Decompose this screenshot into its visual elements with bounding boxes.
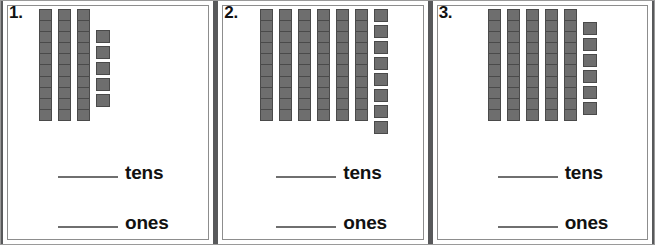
ones-answer-row-1[interactable]: ones: [58, 213, 169, 232]
ones-cube: [96, 62, 110, 75]
problem-number-2: 2.: [224, 4, 238, 21]
tens-rod: [279, 9, 292, 120]
tens-rod: [336, 9, 349, 120]
problem-panels: 1. tens ones 2. tens ones: [1, 1, 654, 244]
rod-unit: [39, 109, 52, 121]
ones-label-1: ones: [125, 213, 169, 232]
tens-rod: [298, 9, 311, 120]
rod-unit: [317, 109, 330, 121]
tens-answer-row-1[interactable]: tens: [58, 163, 163, 182]
base-ten-blocks-2: [260, 9, 388, 137]
ones-cube: [374, 25, 388, 38]
ones-answer-row-2[interactable]: ones: [276, 213, 387, 232]
tens-label-3: tens: [565, 163, 603, 182]
rod-unit: [77, 109, 90, 121]
rod-unit: [336, 109, 349, 121]
rod-unit: [526, 109, 539, 121]
ones-cube: [374, 105, 388, 118]
ones-label-2: ones: [343, 213, 387, 232]
problem-panel-3: 3. tens ones: [430, 1, 654, 244]
tens-blank-input-1[interactable]: [58, 176, 118, 178]
tens-rod: [355, 9, 368, 120]
tens-rod: [39, 9, 52, 120]
ones-label-3: ones: [565, 213, 609, 232]
tens-rod: [77, 9, 90, 120]
ones-cube: [583, 70, 597, 83]
ones-cube: [374, 9, 388, 22]
worksheet-page: 1. tens ones 2. tens ones: [0, 0, 655, 245]
tens-blank-input-3[interactable]: [498, 176, 558, 178]
ones-cube: [96, 30, 110, 43]
rod-unit: [58, 109, 71, 121]
problem-number-3: 3.: [439, 4, 453, 21]
problem-number-1: 1.: [9, 4, 23, 21]
ones-cube: [583, 54, 597, 67]
ones-blank-input-3[interactable]: [498, 226, 558, 228]
rod-unit: [564, 109, 577, 121]
problem-panel-2: 2. tens ones: [215, 1, 430, 244]
tens-rod: [488, 9, 501, 120]
tens-rod: [58, 9, 71, 120]
tens-answer-row-3[interactable]: tens: [498, 163, 603, 182]
tens-label-2: tens: [343, 163, 381, 182]
ones-cube: [96, 78, 110, 91]
ones-cube: [583, 86, 597, 99]
rod-unit: [260, 109, 273, 121]
rod-unit: [298, 109, 311, 121]
rod-unit: [545, 109, 558, 121]
ones-cube-column: [96, 30, 110, 110]
ones-cube: [374, 41, 388, 54]
ones-cube: [374, 121, 388, 134]
tens-blank-input-2[interactable]: [276, 176, 336, 178]
tens-answer-row-2[interactable]: tens: [276, 163, 381, 182]
tens-rod: [564, 9, 577, 120]
ones-cube-column: [374, 9, 388, 137]
tens-rod: [526, 9, 539, 120]
base-ten-blocks-1: [39, 9, 110, 137]
ones-cube: [583, 38, 597, 51]
ones-cube-column: [583, 22, 597, 118]
rod-unit: [355, 109, 368, 121]
ones-blank-input-1[interactable]: [58, 226, 118, 228]
ones-cube: [374, 57, 388, 70]
ones-cube: [374, 73, 388, 86]
tens-rod: [260, 9, 273, 120]
ones-cube: [583, 22, 597, 35]
rod-unit: [488, 109, 501, 121]
rod-unit: [279, 109, 292, 121]
ones-cube: [96, 94, 110, 107]
rod-unit: [507, 109, 520, 121]
tens-rod: [545, 9, 558, 120]
ones-blank-input-2[interactable]: [276, 226, 336, 228]
ones-answer-row-3[interactable]: ones: [498, 213, 609, 232]
ones-cube: [583, 102, 597, 115]
tens-rod: [507, 9, 520, 120]
ones-cube: [374, 89, 388, 102]
base-ten-blocks-3: [488, 9, 597, 137]
tens-rod: [317, 9, 330, 120]
tens-label-1: tens: [125, 163, 163, 182]
ones-cube: [96, 46, 110, 59]
problem-panel-1: 1. tens ones: [1, 1, 216, 244]
